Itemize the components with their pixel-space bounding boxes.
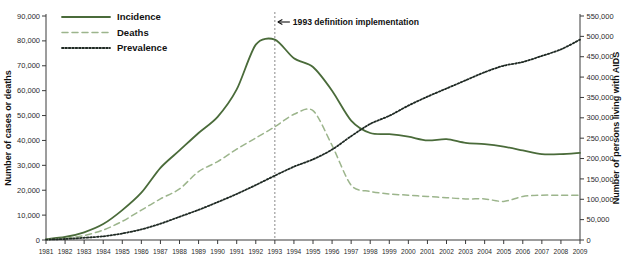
series-line-deaths bbox=[46, 109, 580, 239]
aids-surveillance-chart: 010,00020,00030,00040,00050,00060,00070,… bbox=[0, 0, 628, 264]
x-tick-label: 2003 bbox=[458, 248, 473, 255]
x-tick-label: 2001 bbox=[420, 248, 435, 255]
x-tick-label: 1997 bbox=[344, 248, 359, 255]
x-tick-label: 2006 bbox=[515, 248, 530, 255]
right-axis-title: Number of persons living with AIDS bbox=[611, 52, 621, 205]
x-tick-label: 1999 bbox=[382, 248, 397, 255]
x-tick-label: 1983 bbox=[77, 248, 92, 255]
x-tick-label: 1988 bbox=[172, 248, 187, 255]
x-tick-label: 1981 bbox=[39, 248, 54, 255]
x-tick-label: 1992 bbox=[248, 248, 263, 255]
x-tick-label: 2002 bbox=[439, 248, 454, 255]
left-tick-label: 0 bbox=[36, 236, 40, 245]
right-tick-label: 50,000 bbox=[587, 215, 610, 224]
annotations-group: 1993 definition implementation bbox=[275, 12, 419, 240]
right-tick-label: 250,000 bbox=[587, 134, 614, 143]
left-tick-label: 90,000 bbox=[17, 12, 40, 21]
legend-group: IncidenceDeathsPrevalence bbox=[62, 11, 167, 53]
x-tick-label: 1994 bbox=[287, 248, 302, 255]
x-tick-label: 1984 bbox=[96, 248, 111, 255]
series-line-incidence bbox=[46, 39, 580, 240]
x-tick-label: 1989 bbox=[191, 248, 206, 255]
x-tick-label: 1996 bbox=[325, 248, 340, 255]
x-tick-label: 1995 bbox=[306, 248, 321, 255]
right-tick-label: 500,000 bbox=[587, 32, 614, 41]
left-tick-label: 60,000 bbox=[17, 86, 40, 95]
right-tick-label: 350,000 bbox=[587, 93, 614, 102]
right-tick-label: 400,000 bbox=[587, 73, 614, 82]
x-tick-label: 1982 bbox=[58, 248, 73, 255]
legend-label-deaths: Deaths bbox=[117, 27, 149, 38]
x-tick-label: 2009 bbox=[573, 248, 588, 255]
x-tick-label: 2007 bbox=[535, 248, 550, 255]
x-tick-label: 1998 bbox=[363, 248, 378, 255]
left-tick-label: 70,000 bbox=[17, 61, 40, 70]
x-tick-label: 1985 bbox=[115, 248, 130, 255]
x-tick-label: 1986 bbox=[134, 248, 149, 255]
right-tick-label: 200,000 bbox=[587, 154, 614, 163]
x-tick-label: 1993 bbox=[268, 248, 283, 255]
left-tick-label: 80,000 bbox=[17, 36, 40, 45]
left-tick-label: 10,000 bbox=[17, 211, 40, 220]
x-tick-label: 1991 bbox=[229, 248, 244, 255]
axis-titles-group: Number of cases or deathsNumber of perso… bbox=[3, 52, 621, 205]
x-tick-label: 1987 bbox=[153, 248, 168, 255]
right-tick-label: 150,000 bbox=[587, 175, 614, 184]
left-tick-label: 20,000 bbox=[17, 186, 40, 195]
legend-label-prevalence: Prevalence bbox=[117, 42, 167, 53]
annotation-definition-change-label: 1993 definition implementation bbox=[293, 17, 419, 27]
x-tick-label: 2000 bbox=[401, 248, 416, 255]
legend-label-incidence: Incidence bbox=[117, 11, 161, 22]
right-tick-label: 0 bbox=[587, 236, 591, 245]
left-tick-label: 30,000 bbox=[17, 161, 40, 170]
right-tick-label: 550,000 bbox=[587, 12, 614, 21]
chart-canvas: 010,00020,00030,00040,00050,00060,00070,… bbox=[0, 0, 628, 264]
x-tick-label: 2004 bbox=[477, 248, 492, 255]
right-tick-label: 450,000 bbox=[587, 52, 614, 61]
right-tick-label: 300,000 bbox=[587, 113, 614, 122]
left-tick-label: 40,000 bbox=[17, 136, 40, 145]
right-tick-label: 100,000 bbox=[587, 195, 614, 204]
x-tick-label: 2005 bbox=[496, 248, 511, 255]
x-tick-label: 2008 bbox=[554, 248, 569, 255]
x-tick-label: 1990 bbox=[210, 248, 225, 255]
series-line-prevalence bbox=[46, 40, 580, 240]
left-axis-title: Number of cases or deaths bbox=[3, 70, 13, 186]
series-group bbox=[46, 39, 580, 240]
left-tick-label: 50,000 bbox=[17, 111, 40, 120]
